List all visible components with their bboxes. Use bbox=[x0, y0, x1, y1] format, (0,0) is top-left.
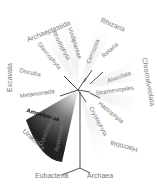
unikonta-wedge bbox=[26, 90, 78, 162]
label-archaea: Archaea bbox=[87, 172, 113, 179]
label-rhizaria: Rhizaria bbox=[100, 16, 127, 32]
label-discoba: Discoba bbox=[19, 67, 42, 78]
label-excavata: Excavata bbox=[6, 63, 13, 92]
phylogenetic-tree: Archaeplastida Viridiplantae Rhodophyta … bbox=[0, 0, 157, 186]
label-hacrobia: Hacrobia bbox=[109, 140, 138, 154]
label-chromalveolata: Chromalveolata bbox=[141, 57, 156, 107]
label-metamonada: Metamonada bbox=[19, 88, 55, 99]
label-eubacteria: Eubacteria bbox=[35, 172, 69, 179]
